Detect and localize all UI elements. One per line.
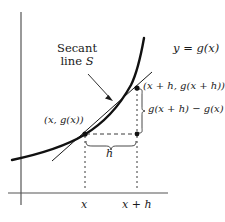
lower-point-label: (x, g(x)): [44, 114, 84, 126]
tick-label-x-text: x: [81, 198, 87, 211]
secant-line-label: Secant line S: [57, 42, 97, 68]
h-brace-label-text: h: [106, 147, 113, 160]
upper-point-marker: [134, 85, 139, 90]
secant-line-label-symbol: S: [86, 54, 94, 68]
difference-brace: [139, 89, 145, 133]
corner-point-marker: [135, 132, 140, 137]
upper-point-label: (x + h, g(x + h)): [143, 80, 225, 92]
secant-line-label-word: line: [60, 54, 85, 68]
secant-line-label-line2: line S: [57, 55, 97, 68]
h-brace-label: h: [106, 148, 113, 161]
secant-arrow-shaft: [88, 74, 110, 98]
tick-label-x-plus-h: x + h: [122, 199, 152, 212]
curve-equation-arg: (x): [204, 41, 219, 55]
vertical-difference-label-text: g(x + h) − g(x): [148, 103, 224, 114]
secant-arrow-head: [105, 95, 113, 101]
tick-label-x-plus-h-text: x + h: [122, 198, 152, 211]
curve-equation-label: y = g(x): [173, 42, 219, 55]
lower-point-label-text: (x, g(x)): [44, 114, 84, 125]
upper-point-label-text: (x + h, g(x + h)): [143, 80, 225, 91]
curve-equation-equals: =: [180, 41, 197, 55]
secant-line-figure: Secant line S y = g(x) (x + h, g(x + h))…: [0, 0, 225, 222]
vertical-difference-label: g(x + h) − g(x): [148, 103, 224, 115]
curve-equation-fn: g: [196, 41, 203, 55]
tick-label-x: x: [81, 199, 87, 212]
lower-point-marker: [82, 131, 87, 136]
